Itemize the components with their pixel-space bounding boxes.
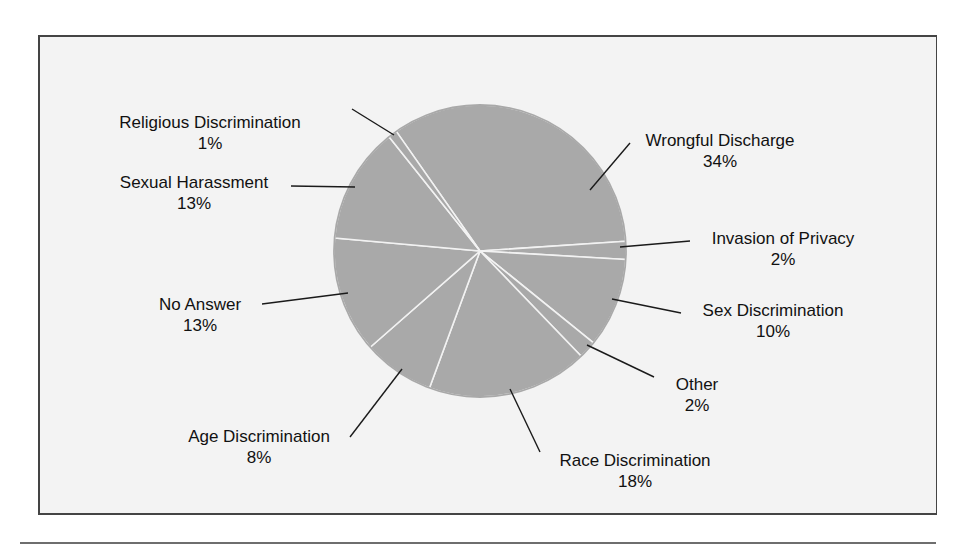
label-sex-pct: 10%: [683, 321, 863, 342]
label-sex-name: Sex Discrimination: [683, 300, 863, 321]
label-other: Other 2%: [652, 374, 742, 416]
label-age-pct: 8%: [164, 447, 354, 468]
label-other-name: Other: [652, 374, 742, 395]
label-religious: Religious Discrimination 1%: [105, 112, 315, 154]
label-harassment-name: Sexual Harassment: [94, 172, 294, 193]
leader-age: [350, 369, 402, 437]
label-race-name: Race Discrimination: [540, 450, 730, 471]
leader-sex: [612, 299, 681, 313]
label-noanswer-name: No Answer: [140, 294, 260, 315]
label-wrongful-pct: 34%: [630, 151, 810, 172]
label-wrongful: Wrongful Discharge 34%: [630, 130, 810, 172]
leader-harassment: [291, 186, 355, 187]
label-wrongful-name: Wrongful Discharge: [630, 130, 810, 151]
label-sex: Sex Discrimination 10%: [683, 300, 863, 342]
pie-chart: [0, 0, 977, 547]
label-race: Race Discrimination 18%: [540, 450, 730, 492]
label-harassment: Sexual Harassment 13%: [94, 172, 294, 214]
label-invasion-pct: 2%: [692, 249, 874, 270]
leader-invasion: [620, 241, 690, 247]
label-age: Age Discrimination 8%: [164, 426, 354, 468]
leader-race: [510, 389, 540, 452]
label-invasion-name: Invasion of Privacy: [692, 228, 874, 249]
leader-noanswer: [262, 293, 348, 304]
leader-religious: [352, 109, 394, 135]
label-religious-name: Religious Discrimination: [105, 112, 315, 133]
leader-other: [587, 345, 654, 377]
label-invasion: Invasion of Privacy 2%: [692, 228, 874, 270]
pie-slices: [334, 105, 626, 397]
label-religious-pct: 1%: [105, 133, 315, 154]
label-noanswer: No Answer 13%: [140, 294, 260, 336]
label-race-pct: 18%: [540, 471, 730, 492]
label-harassment-pct: 13%: [94, 193, 294, 214]
label-age-name: Age Discrimination: [164, 426, 354, 447]
label-noanswer-pct: 13%: [140, 315, 260, 336]
label-other-pct: 2%: [652, 395, 742, 416]
